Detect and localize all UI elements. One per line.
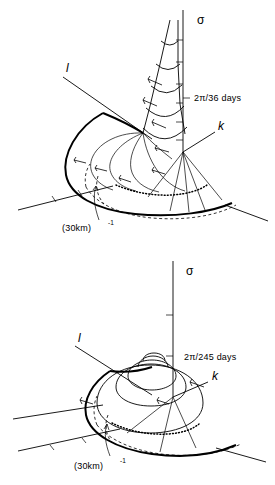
sigma-axis-label-top: σ — [197, 13, 205, 27]
wavenumber-limit-dashed-top — [85, 164, 236, 219]
sigma-axis-top — [176, 10, 183, 152]
radial-fan-top — [148, 152, 222, 212]
scale-label-superscript-top: -1 — [108, 219, 114, 226]
figure-page: σ l k 2π/36 days (30km) -1 — [0, 0, 275, 485]
sigma-axis-bottom — [166, 261, 173, 397]
scale-label-top: (30km) -1 — [62, 219, 114, 233]
k-axis-top — [183, 132, 268, 221]
base-dotted-contour-top — [116, 185, 207, 195]
l-axis-bottom — [13, 346, 152, 451]
lower-dispersion-panel: σ l k 2π/245 days (30km) -1 — [0, 243, 275, 485]
sigma-axis-label-bottom: σ — [186, 264, 194, 278]
frequency-label-top: 2π/36 days — [194, 93, 242, 103]
l-axis-label-top: l — [66, 61, 69, 75]
surface-contours-top — [91, 133, 185, 192]
dome-surface-bottom — [97, 353, 203, 433]
scale-label-text-top: (30km) — [62, 223, 91, 233]
scale-label-bottom: (30km) -1 — [74, 457, 126, 471]
l-axis-label-bottom: l — [78, 331, 81, 345]
upper-dispersion-panel: σ l k 2π/36 days (30km) -1 — [0, 0, 275, 243]
k-axis-label-bottom: k — [212, 369, 219, 383]
scale-label-superscript-bottom: -1 — [120, 457, 126, 464]
scale-label-text-bottom: (30km) — [74, 461, 103, 471]
wavenumber-limit-dashed-bottom — [94, 396, 241, 455]
k-axis-label-top: k — [218, 119, 225, 133]
frequency-label-bottom: 2π/245 days — [184, 352, 237, 362]
